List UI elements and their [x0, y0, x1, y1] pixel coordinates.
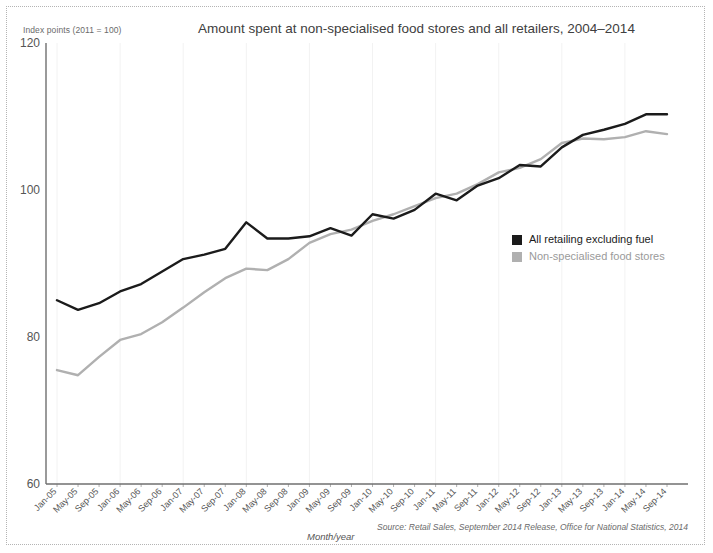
legend-item-food-stores: Non-specialised food stores	[512, 248, 665, 265]
legend-item-all-retailing: All retailing excluding fuel	[512, 231, 665, 248]
series-line	[57, 114, 667, 309]
line-chart-plot: 6080100120 Jan-05May-05Sep-05Jan-06May-0…	[7, 7, 706, 546]
x-axis-tick-labels: Jan-05May-05Sep-05Jan-06May-06Sep-06Jan-…	[32, 486, 669, 514]
svg-text:Sep-05: Sep-05	[73, 486, 101, 514]
svg-text:Sep-10: Sep-10	[388, 486, 416, 514]
legend-label-food-stores: Non-specialised food stores	[529, 248, 665, 265]
svg-text:Sep-14: Sep-14	[641, 486, 669, 514]
x-axis-title: Month/year	[307, 531, 355, 542]
svg-text:100: 100	[20, 183, 40, 197]
legend-label-all-retailing: All retailing excluding fuel	[529, 231, 653, 248]
svg-text:80: 80	[27, 330, 41, 344]
chart-frame: Index points (2011 = 100) Amount spent a…	[6, 6, 705, 545]
svg-text:120: 120	[20, 36, 40, 50]
svg-text:Sep-11: Sep-11	[452, 486, 479, 513]
y-axis-tick-labels: 6080100120	[20, 36, 40, 491]
svg-text:60: 60	[27, 477, 41, 491]
svg-text:Sep-08: Sep-08	[262, 486, 290, 514]
svg-text:Sep-12: Sep-12	[515, 486, 543, 514]
svg-text:Sep-13: Sep-13	[578, 486, 606, 514]
svg-text:Sep-06: Sep-06	[136, 486, 164, 514]
svg-text:Sep-07: Sep-07	[199, 486, 227, 514]
chart-legend: All retailing excluding fuel Non-special…	[512, 231, 665, 265]
legend-swatch-food-stores	[512, 252, 522, 262]
svg-text:Sep-09: Sep-09	[325, 486, 353, 514]
legend-swatch-all-retailing	[512, 235, 522, 245]
svg-text:May-11: May-11	[430, 486, 458, 514]
source-note: Source: Retail Sales, September 2014 Rel…	[377, 522, 688, 532]
